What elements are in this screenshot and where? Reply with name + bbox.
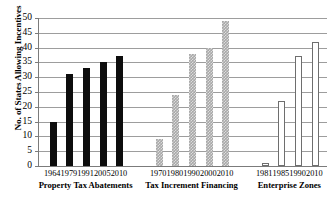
bar	[189, 54, 196, 166]
y-axis-tick-label: 15	[13, 117, 32, 127]
y-axis-tick-label: 25	[13, 87, 32, 97]
y-axis-tick-label: 10	[13, 131, 32, 141]
bar	[206, 48, 213, 166]
gridline	[39, 33, 327, 34]
y-axis-tick-label: 5	[13, 146, 32, 156]
bar	[312, 42, 319, 166]
x-axis-group-label: Enterprise Zones	[229, 181, 333, 190]
bar	[295, 56, 302, 166]
bar-chart: No. of States Allowing Incentives 051015…	[0, 0, 333, 203]
bar	[278, 101, 285, 166]
bar	[156, 139, 163, 166]
y-axis-tick-label: 50	[13, 13, 32, 23]
y-axis-tick	[35, 136, 39, 137]
gridline	[39, 18, 327, 19]
bar	[262, 163, 269, 166]
y-axis-tick-label: 30	[13, 72, 32, 82]
y-axis-tick	[35, 107, 39, 108]
y-axis-tick-label: 35	[13, 57, 32, 67]
y-axis-tick-label: 45	[13, 28, 32, 38]
y-axis-tick	[35, 77, 39, 78]
y-axis-tick	[35, 33, 39, 34]
bar	[116, 56, 123, 166]
bar	[222, 21, 229, 166]
y-axis-tick-label: 40	[13, 43, 32, 53]
gridline	[39, 62, 327, 63]
x-axis-category-label: 2010	[211, 170, 239, 178]
y-axis-tick	[35, 166, 39, 167]
y-axis-tick	[35, 92, 39, 93]
y-axis-tick-label: 0	[13, 161, 32, 171]
bar	[66, 74, 73, 166]
y-axis-tick	[35, 62, 39, 63]
bar	[50, 122, 57, 166]
x-axis-category-label: 2010	[300, 170, 328, 178]
bar	[100, 62, 107, 166]
y-axis-tick-label: 20	[13, 102, 32, 112]
x-axis-group-label: Property Tax Abatements	[26, 181, 146, 190]
y-axis-tick	[35, 48, 39, 49]
plot-area	[38, 18, 327, 167]
y-axis-tick	[35, 18, 39, 19]
gridline	[39, 48, 327, 49]
x-axis-category-label: 2010	[105, 170, 133, 178]
y-axis-tick	[35, 151, 39, 152]
bar	[172, 95, 179, 166]
bar	[83, 68, 90, 166]
y-axis-tick	[35, 122, 39, 123]
